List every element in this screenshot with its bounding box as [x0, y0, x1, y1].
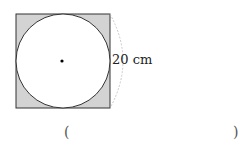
center-dot	[60, 59, 63, 62]
answer-open-paren: (	[64, 124, 69, 140]
answer-blank[interactable]	[74, 124, 230, 142]
answer-close-paren: )	[233, 124, 238, 140]
side-length-label: 20 cm	[112, 52, 152, 67]
